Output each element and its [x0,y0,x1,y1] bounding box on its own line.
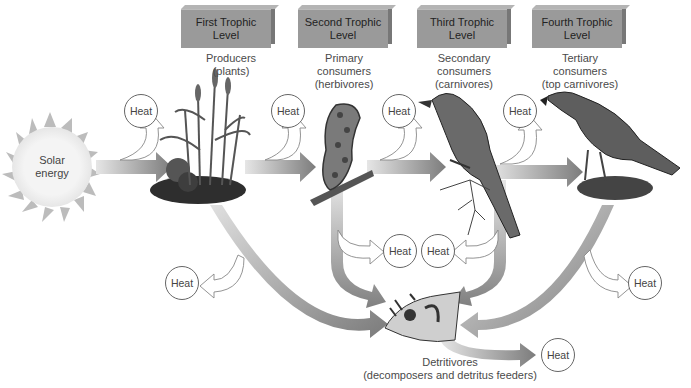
trophic-level-3-line2: Level [417,29,507,42]
tertiary-consumers-line2: consumers [530,65,630,78]
heat-circle-producers: Heat [271,94,305,128]
detritivores-label-line2: (decomposers and detritus feeders) [350,369,550,382]
secondary-consumers-line2: consumers [420,65,508,78]
tertiary-consumers-line1: Tertiary [530,52,630,65]
trophic-level-4-line2: Level [532,29,622,42]
producers-label-line1: Producers [196,52,266,65]
detritivores-illustration [385,292,460,342]
primary-consumers-line1: Primary [300,52,388,65]
primary-consumers-line3: (herbivores) [300,78,388,91]
detritivores-label-line1: Detritivores [350,356,550,369]
hawk-illustration [540,92,680,200]
primary-consumers-line2: consumers [300,65,388,78]
trophic-level-box-4: Fourth Trophic Level [532,9,622,48]
food-chain-diagram: First Trophic Level Second Trophic Level… [0,0,691,388]
trophic-level-box-2: Second Trophic Level [298,9,388,48]
trophic-level-box-3: Third Trophic Level [417,9,507,48]
trophic-level-3-line1: Third Trophic [417,16,507,29]
caterpillar-illustration [310,104,374,206]
trophic-level-1-line1: First Trophic [181,16,271,29]
tertiary-consumers-line3: (top carnivores) [530,78,630,91]
trophic-level-1-line2: Level [181,29,271,42]
detritivores-label: Detritivores (decomposers and detritus f… [350,356,550,382]
solar-energy-label: Solar energy [22,154,82,180]
heat-circle-herbivore-detritus: Heat [383,234,417,268]
producers-label-line2: (plants) [196,65,266,78]
trophic-level-box-1: First Trophic Level [181,9,271,48]
heat-circle-carnivores: Heat [503,94,537,128]
primary-consumers-label: Primary consumers (herbivores) [300,52,388,91]
heat-circle-top-carnivore-detritus: Heat [628,266,662,300]
secondary-consumers-line3: (carnivores) [420,78,508,91]
trophic-level-2-line1: Second Trophic [298,16,388,29]
trophic-level-4-line1: Fourth Trophic [532,16,622,29]
heat-circle-solar: Heat [124,94,158,128]
heat-circle-producer-detritus: Heat [165,266,199,300]
secondary-consumers-label: Secondary consumers (carnivores) [420,52,508,91]
producers-label: Producers (plants) [196,52,266,78]
heat-circle-carnivore-detritus: Heat [421,234,455,268]
plants-illustration [150,68,250,204]
tertiary-consumers-label: Tertiary consumers (top carnivores) [530,52,630,91]
trophic-level-2-line2: Level [298,29,388,42]
heat-circle-herbivores: Heat [382,94,416,128]
secondary-consumers-line1: Secondary [420,52,508,65]
heat-loss-arrows [120,114,632,298]
